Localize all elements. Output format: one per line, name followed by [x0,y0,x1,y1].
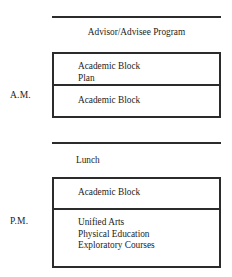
schedule-diagram: A.M. P.M. Advisor/Advisee Program Academ… [0,0,232,277]
pm-block-group: Academic Block Unified Arts Physical Edu… [52,177,221,268]
row-lunch: Lunch [76,155,100,167]
pm-electives-line-3: Exploratory Courses [78,240,213,252]
pm-academic-block-1-line-1: Academic Block [78,187,213,199]
lunch-top-rule [52,142,221,144]
pm-academic-block-1: Academic Block [78,187,213,199]
period-label-pm: P.M. [10,216,50,226]
am-academic-block-1-line-1: Academic Block [78,61,213,73]
am-academic-block-2-line-1: Academic Block [78,95,213,107]
lunch-label: Lunch [76,155,100,167]
am-academic-block-1: Academic Block Plan [78,61,213,84]
am-academic-block-2: Academic Block [78,95,213,107]
period-label-am: A.M. [10,90,50,100]
pm-electives-line-2: Physical Education [78,229,213,241]
am-block-divider [54,84,219,86]
pm-block-divider [54,208,219,210]
top-divider-rule [52,16,221,18]
row-advisor-advisee-program: Advisor/Advisee Program [52,27,221,39]
pm-electives-block: Unified Arts Physical Education Explorat… [78,217,213,252]
am-block-group: Academic Block Plan Academic Block [52,52,221,118]
am-academic-block-1-line-2: Plan [78,73,213,85]
advisor-advisee-label: Advisor/Advisee Program [52,27,221,39]
pm-electives-line-1: Unified Arts [78,217,213,229]
